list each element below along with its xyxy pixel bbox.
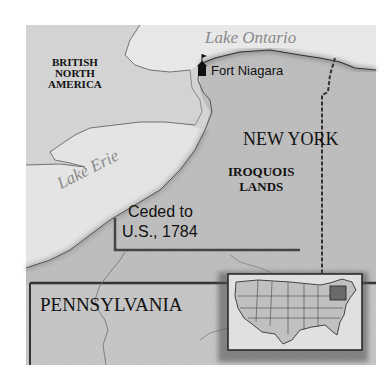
map-canvas: BRITISH NORTH AMERICA Lake Ontario Fort … [0,0,390,381]
label-line: U.S., 1784 [122,222,198,242]
label-fort-niagara: Fort Niagara [211,64,283,77]
label-lake-ontario: Lake Ontario [205,29,296,46]
label-pennsylvania: PENNSYLVANIA [40,295,183,314]
label-british-north-america: BRITISH NORTH AMERICA [48,57,102,90]
label-ceded-to-us: Ceded to U.S., 1784 [122,202,198,242]
inset-us-map [228,274,362,350]
label-line: IROQUOIS [228,164,294,179]
label-line: Ceded to [122,202,198,222]
inset-highlight-ny-pa [330,286,346,300]
label-new-york: NEW YORK [243,130,339,148]
label-iroquois-lands: IROQUOIS LANDS [228,164,294,194]
label-line: AMERICA [48,79,102,90]
label-line: LANDS [228,179,294,194]
